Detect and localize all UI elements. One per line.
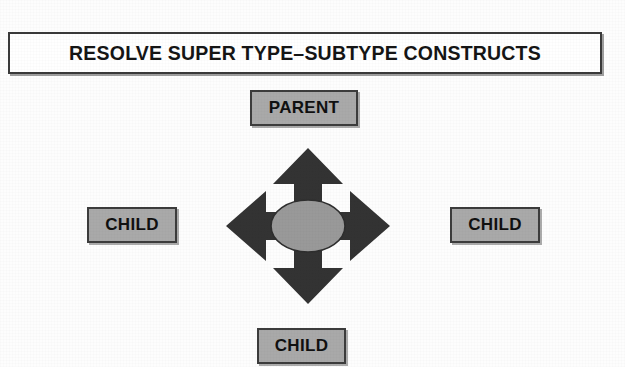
- node-parent[interactable]: PARENT: [250, 90, 358, 126]
- four-way-arrow-icon: [206, 140, 410, 315]
- hub-ellipse: [271, 200, 345, 252]
- node-child-bottom-label: CHILD: [275, 336, 328, 356]
- node-parent-label: PARENT: [269, 98, 339, 118]
- node-child-left[interactable]: CHILD: [87, 207, 177, 243]
- page-title: RESOLVE SUPER TYPE–SUBTYPE CONSTRUCTS: [69, 42, 541, 65]
- node-child-bottom[interactable]: CHILD: [257, 328, 346, 364]
- node-child-right[interactable]: CHILD: [450, 207, 540, 243]
- diagram-canvas: RESOLVE SUPER TYPE–SUBTYPE CONSTRUCTS PA…: [0, 0, 625, 367]
- title-banner: RESOLVE SUPER TYPE–SUBTYPE CONSTRUCTS: [8, 32, 602, 74]
- node-child-left-label: CHILD: [105, 215, 158, 235]
- node-child-right-label: CHILD: [468, 215, 521, 235]
